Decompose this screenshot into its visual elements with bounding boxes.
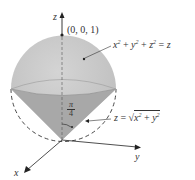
cone-leader-arrow-icon [85, 119, 89, 123]
cone-eq-exp-x: 2 [139, 112, 142, 118]
y-axis-label: y [135, 152, 139, 162]
sphere-eq-exp-z: 2 [153, 39, 156, 45]
sphere-eq-plus-2: + [141, 39, 147, 50]
cone-eq-equals: = [120, 112, 126, 123]
cone-surface [11, 89, 116, 140]
sphere-equation: x2 + y2 + z2 = z [113, 40, 171, 50]
z-axis-label: z [53, 12, 57, 22]
sphere-eq-exp-y: 2 [136, 39, 139, 45]
sphere-leader-dot [83, 58, 85, 60]
cone-eq-z: z [114, 112, 118, 123]
point-marker [60, 33, 63, 36]
sphere-eq-rhs: z [167, 39, 171, 50]
y-arrow-icon [135, 145, 141, 151]
sphere-eq-equals: = [159, 39, 165, 50]
angle-label: π 4 [67, 101, 75, 118]
point-label: (0, 0, 1) [67, 25, 99, 35]
angle-denominator: 4 [67, 110, 75, 118]
y-axis [62, 140, 137, 147]
x-axis-label: x [14, 168, 18, 178]
cone-equation: z = √x2 + y2 [114, 113, 160, 123]
z-arrow-icon [60, 12, 65, 18]
sphere-eq-plus-1: + [123, 39, 129, 50]
cone-eq-plus: + [144, 112, 150, 123]
cone-eq-radicand: x2 + y2 [134, 110, 160, 123]
sphere-eq-exp-x: 2 [117, 39, 120, 45]
angle-arc-dot [71, 126, 73, 128]
cone-leader [88, 119, 111, 121]
cone-eq-exp-y: 2 [157, 112, 160, 118]
x-axis [27, 140, 62, 170]
